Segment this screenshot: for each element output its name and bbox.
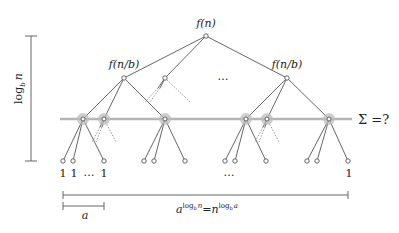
level1-left-label: f(n/b): [108, 58, 140, 71]
sum-label: Σ =?: [358, 112, 389, 127]
leaf-label-2: 1: [71, 167, 78, 180]
level1-ellipsis: …: [218, 70, 229, 83]
leaf-label-ellipsis: …: [84, 166, 95, 179]
level1-node-middle: [163, 76, 167, 80]
leaf-label-3: 1: [101, 167, 108, 180]
recursion-tree-diagram: logbn: [0, 0, 399, 233]
total-width-bar: [63, 191, 348, 199]
edges-level2: [63, 119, 348, 161]
root-node: [204, 34, 208, 38]
level1-node-right: [285, 76, 289, 80]
dotted-edges-level1: [145, 78, 190, 102]
dotted-edges-level2: [92, 119, 279, 142]
leaf-last-label: 1: [346, 167, 353, 180]
height-scale-bar: logbn: [12, 36, 37, 161]
leaf-label-1: 1: [60, 167, 67, 180]
upper-nodes: [122, 34, 289, 80]
level1-node-left: [122, 76, 126, 80]
height-label: logbn: [12, 73, 27, 104]
leaf-middle-ellipsis: …: [224, 166, 235, 179]
branch-width-label: a: [82, 209, 89, 222]
root-label: f(n): [195, 17, 216, 30]
edges-level1: [83, 78, 329, 119]
level1-right-label: f(n/b): [271, 58, 303, 71]
leaf-nodes: [61, 159, 350, 163]
edges-root: [124, 36, 287, 78]
total-width-label: alogbn=nlogba: [176, 202, 238, 216]
